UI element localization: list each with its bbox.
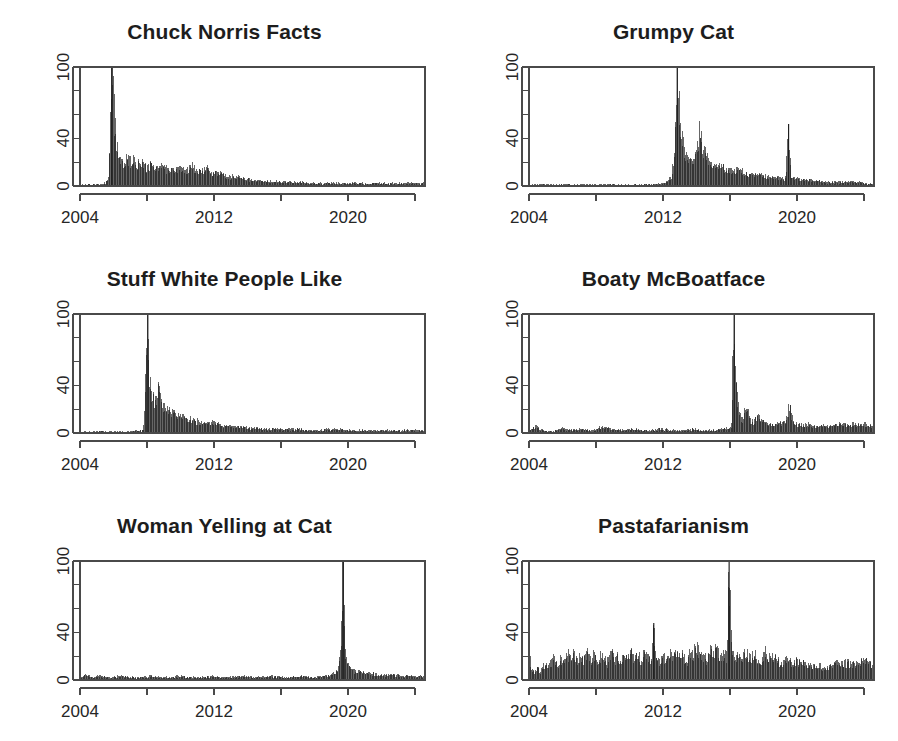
- x-tick-label: 2020: [318, 455, 378, 475]
- y-tick-label: 100: [54, 44, 74, 90]
- x-axis: [80, 688, 415, 695]
- y-tick-label: 100: [503, 44, 523, 90]
- x-axis: [529, 688, 864, 695]
- meme-trends-figure: Chuck Norris Facts040100200420122020Grum…: [0, 0, 898, 741]
- x-tick-label: 2020: [318, 702, 378, 722]
- x-tick-label: 2004: [499, 702, 559, 722]
- x-axis: [529, 194, 864, 201]
- x-tick-label: 2020: [767, 208, 827, 228]
- plot-frame: [529, 314, 874, 433]
- y-tick-label: 100: [503, 291, 523, 337]
- y-tick-label: 100: [54, 291, 74, 337]
- x-tick-label: 2004: [50, 702, 110, 722]
- x-tick-label: 2020: [767, 455, 827, 475]
- x-tick-label: 2012: [184, 208, 244, 228]
- series-bars: [529, 67, 873, 186]
- y-tick-label: 100: [54, 538, 74, 584]
- y-tick-label: 0: [503, 163, 523, 209]
- x-tick-label: 2012: [633, 208, 693, 228]
- panel-stuff-white-people-like: Stuff White People Like04010020042012202…: [0, 247, 449, 494]
- series-bars: [529, 314, 873, 433]
- series-bars: [529, 572, 873, 680]
- x-tick-label: 2004: [499, 208, 559, 228]
- x-axis: [529, 441, 864, 448]
- x-tick-label: 2012: [633, 455, 693, 475]
- panel-pastafarianism: Pastafarianism040100200420122020: [449, 494, 898, 741]
- x-tick-label: 2020: [767, 702, 827, 722]
- x-tick-label: 2012: [633, 702, 693, 722]
- series-bars: [80, 561, 424, 680]
- y-tick-label: 40: [503, 362, 523, 408]
- panel-woman-yelling-at-cat: Woman Yelling at Cat040100200420122020: [0, 494, 449, 741]
- series-bars: [80, 67, 424, 186]
- x-tick-label: 2012: [184, 455, 244, 475]
- series-bars: [80, 315, 424, 433]
- y-tick-label: 40: [54, 609, 74, 655]
- y-tick-label: 0: [54, 657, 74, 703]
- plot-frame: [80, 314, 425, 433]
- x-tick-label: 2020: [318, 208, 378, 228]
- x-tick-label: 2012: [184, 702, 244, 722]
- y-tick-label: 100: [503, 538, 523, 584]
- panel-chuck-norris-facts: Chuck Norris Facts040100200420122020: [0, 0, 449, 247]
- x-axis: [80, 441, 415, 448]
- y-tick-label: 40: [54, 115, 74, 161]
- y-tick-label: 0: [54, 410, 74, 456]
- plot-frame: [80, 561, 425, 680]
- x-tick-label: 2004: [499, 455, 559, 475]
- panel-boaty-mcboatface: Boaty McBoatface040100200420122020: [449, 247, 898, 494]
- y-tick-label: 40: [503, 609, 523, 655]
- y-tick-label: 40: [503, 115, 523, 161]
- y-tick-label: 0: [503, 657, 523, 703]
- y-tick-label: 0: [54, 163, 74, 209]
- x-tick-label: 2004: [50, 208, 110, 228]
- x-tick-label: 2004: [50, 455, 110, 475]
- panel-grumpy-cat: Grumpy Cat040100200420122020: [449, 0, 898, 247]
- y-tick-label: 40: [54, 362, 74, 408]
- x-axis: [80, 194, 415, 201]
- y-tick-label: 0: [503, 410, 523, 456]
